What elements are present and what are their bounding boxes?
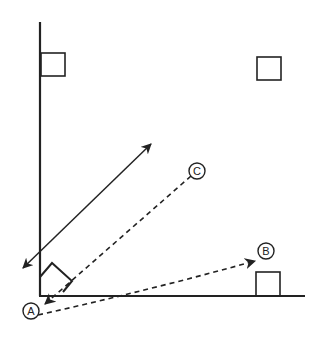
- label-C-text: C: [193, 165, 201, 177]
- label-C: C: [189, 163, 205, 179]
- dashed-arrow-to-B: [38, 261, 255, 315]
- label-B-text: B: [262, 245, 269, 257]
- label-A-text: A: [27, 305, 35, 317]
- corner-tilted-block: [40, 263, 72, 292]
- floating-block-top-right: [257, 57, 281, 80]
- label-B: B: [258, 243, 274, 259]
- label-A: A: [23, 303, 39, 319]
- dashed-arrow-to-A: [45, 176, 191, 304]
- floor-block-right: [256, 272, 280, 296]
- diagram-canvas: A B C: [0, 0, 320, 342]
- wall-block-top: [41, 53, 65, 76]
- double-headed-solid-arrow: [23, 144, 151, 268]
